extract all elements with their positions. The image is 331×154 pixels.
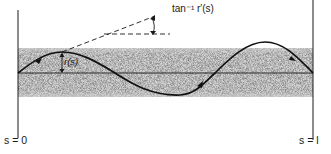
helical-ray-diagram: tan⁻¹ r′(s) r(s) s = 0 s = l	[0, 0, 331, 154]
radius-label: r(s)	[64, 56, 78, 67]
start-position-label: s = 0	[4, 134, 27, 146]
end-position-label: s = l	[299, 134, 319, 146]
diagram-canvas	[0, 0, 331, 154]
angle-label: tan⁻¹ r′(s)	[172, 3, 214, 14]
angle-arc-arrow-icon	[150, 15, 156, 35]
